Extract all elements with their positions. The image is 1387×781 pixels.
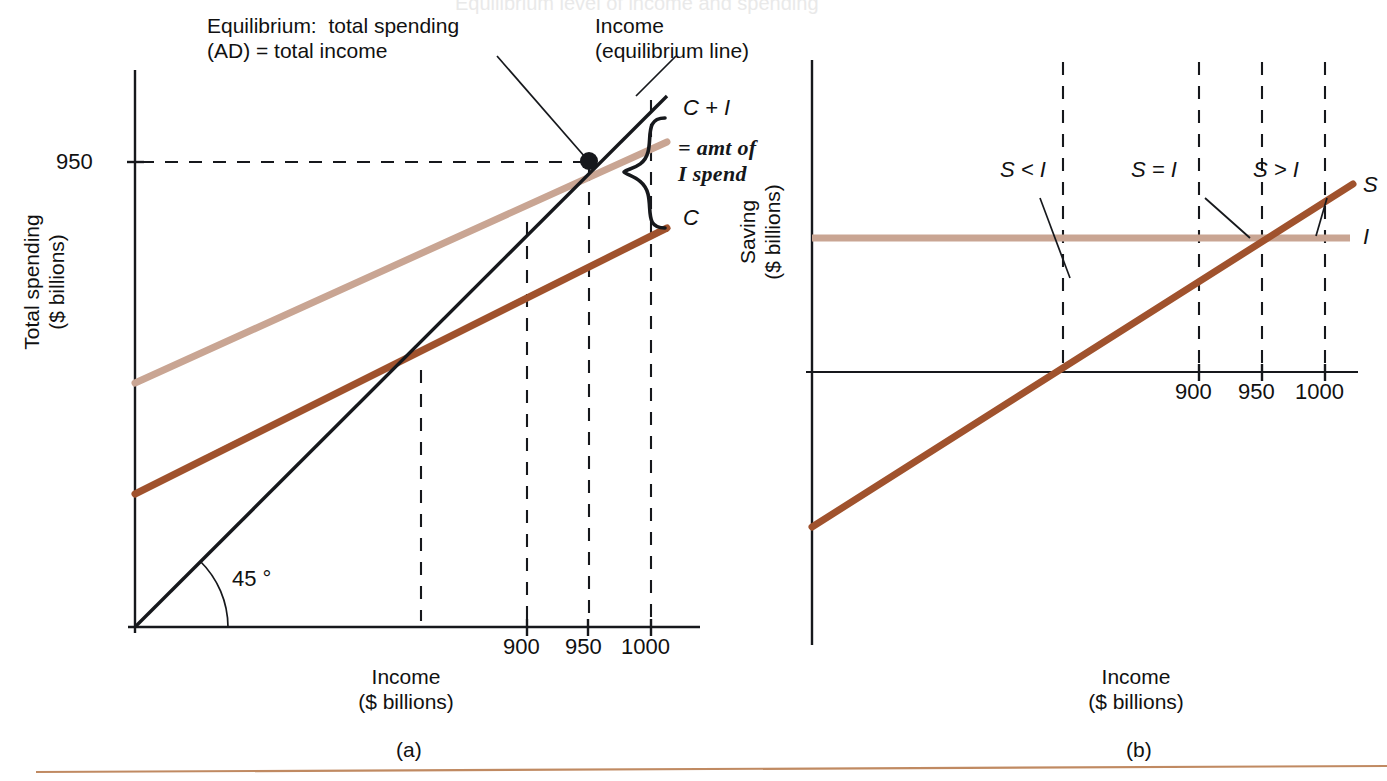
curve-equilibrium-45: [136, 96, 667, 626]
zone-label-s-greater-than-i: S > I: [1253, 157, 1299, 183]
panel-a-xtick-1000: 1000: [621, 634, 670, 660]
bottom-rule: [36, 766, 1387, 772]
leader-equilibrium-callout: [497, 56, 585, 157]
zone-label-s-less-than-i: S < I: [1000, 157, 1046, 183]
panel-b-dashed-guides: [1063, 62, 1325, 366]
label-c: C: [683, 205, 699, 231]
equilibrium-callout-text: Equilibrium: total spending (AD) = total…: [207, 14, 459, 64]
panel-a-xtick-900: 900: [503, 634, 540, 660]
panel-b-x-axis-title: Income ($ billions): [1026, 665, 1246, 715]
panel-a-x-axis-title: Income ($ billions): [296, 665, 516, 715]
leader-s-equals-i: [1205, 198, 1250, 238]
label-c-plus-i: C + I: [683, 95, 730, 121]
panel-b-xtick-950: 950: [1238, 379, 1275, 405]
panel-a-xtick-950: 950: [565, 634, 602, 660]
panel-b-xtick-1000: 1000: [1295, 379, 1344, 405]
label-s: S: [1363, 172, 1378, 198]
panel-b-xtick-900: 900: [1175, 379, 1212, 405]
angle-arc-45: [200, 561, 228, 627]
zone-label-s-equals-i: S = I: [1131, 157, 1177, 183]
panel-b-y-axis-title: Saving ($ billions): [736, 132, 786, 332]
curve-c-plus-i: [135, 142, 667, 383]
panel-a-y-axis-title: Total spending ($ billions): [20, 162, 70, 402]
panel-a-caption: (a): [396, 738, 422, 763]
figure-equilibrium-income-spending: Equilibrium level of income and spending: [0, 0, 1387, 781]
angle-label-45: 45 °: [232, 566, 271, 592]
income-line-callout-text: Income (equilibrium line): [595, 14, 749, 64]
label-i: I: [1363, 224, 1369, 250]
panel-b-caption: (b): [1126, 738, 1152, 763]
